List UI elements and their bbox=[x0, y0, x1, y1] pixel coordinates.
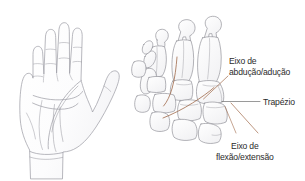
label-abduction-line1: Eixo de bbox=[229, 56, 256, 66]
phalanx-head-right bbox=[205, 16, 222, 38]
left-hand-group bbox=[20, 23, 119, 179]
leader-line-flexion bbox=[231, 103, 258, 133]
label-trapezium-text: Trapézio bbox=[263, 97, 295, 107]
label-flexion-line1: Eixo de bbox=[231, 141, 258, 151]
hand-silhouette bbox=[20, 23, 119, 179]
phalanx-head-middle bbox=[178, 20, 195, 42]
phalanx-head-left bbox=[156, 29, 169, 47]
carpal-trapezoid bbox=[147, 76, 166, 92]
carpal-lunate bbox=[178, 100, 202, 121]
label-flexion-extension-axis: Eixo de flexão/extensão bbox=[216, 141, 274, 163]
label-flexion-line2: flexão/extensão bbox=[216, 152, 274, 163]
label-abduction-line2: abdução/adução bbox=[229, 67, 290, 78]
carpal-triquetrum bbox=[203, 102, 227, 124]
illustration-canvas: Eixo de abdução/adução Trapézio Eixo de … bbox=[0, 0, 305, 181]
carpal-pisiform bbox=[150, 112, 170, 132]
carpal-left-partial-lower bbox=[135, 95, 151, 112]
label-abduction-adduction-axis: Eixo de abdução/adução bbox=[229, 56, 290, 78]
carpal-metacarpal-skeleton-group bbox=[132, 16, 228, 143]
carpal-hamate bbox=[172, 119, 197, 140]
carpal-scaphoid bbox=[153, 93, 176, 113]
carpal-left-partial-upper bbox=[132, 61, 146, 78]
label-trapezium: Trapézio bbox=[263, 97, 295, 108]
